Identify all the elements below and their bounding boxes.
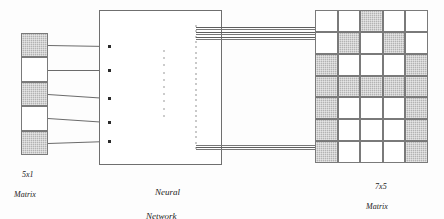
nn-output-node-10 (195, 73, 197, 75)
output-matrix-cell-r2-c2 (338, 32, 361, 54)
nn-caption-line1: Neural (155, 187, 180, 197)
nn-output-node-13 (195, 89, 197, 91)
output-matrix-cell-r4-c4 (383, 76, 406, 98)
output-matrix-cell-r1-c3 (360, 10, 383, 32)
output-matrix-cell-r6-c3 (360, 119, 383, 141)
nn-hidden-node-8 (163, 100, 165, 102)
nn-output-node-4 (195, 41, 197, 43)
nn-hidden-node-2 (163, 57, 165, 59)
output-caption-line2: Matrix (366, 202, 388, 212)
input-caption-line2: Matrix (14, 190, 36, 200)
nn-output-node-20 (195, 126, 197, 128)
output-matrix-cell-r2-c3 (360, 32, 383, 54)
input-matrix-5x1 (21, 33, 48, 155)
nn-input-node-4 (108, 121, 111, 124)
top-bundle-line-5 (196, 37, 318, 38)
top-bundle-line-4 (196, 34, 318, 35)
output-matrix-cell-r4-c3 (360, 76, 383, 98)
output-matrix-cell-r1-c5 (405, 10, 428, 32)
nn-output-node-16 (195, 105, 197, 107)
input-matrix-cell-r2-c1 (21, 57, 48, 81)
diagram-canvas: 5x1 Matrix Neural Network 7x5 Matrix (0, 0, 444, 219)
bottom-bundle-line-3 (196, 149, 318, 150)
nn-output-node-23 (195, 142, 197, 144)
nn-output-node-5 (195, 46, 197, 48)
nn-hidden-node-1 (163, 50, 165, 52)
nn-input-node-1 (108, 45, 111, 48)
top-bundle-line-1 (196, 27, 318, 28)
nn-output-node-18 (195, 115, 197, 117)
output-matrix-cell-r3-c3 (360, 54, 383, 76)
output-matrix-cell-r7-c5 (405, 141, 428, 163)
output-caption-line1: 7x5 (375, 182, 387, 191)
output-matrix-cell-r3-c1 (315, 54, 338, 76)
nn-hidden-node-6 (163, 86, 165, 88)
nn-hidden-node-9 (163, 108, 165, 110)
bottom-bundle-line-1 (196, 145, 318, 146)
nn-output-node-14 (195, 94, 197, 96)
nn-output-node-7 (195, 57, 197, 59)
nn-hidden-node-5 (163, 79, 165, 81)
output-matrix-cell-r5-c4 (383, 97, 406, 119)
output-matrix-cell-r1-c1 (315, 10, 338, 32)
output-matrix-cell-r7-c2 (338, 141, 361, 163)
output-matrix-cell-r1-c2 (338, 10, 361, 32)
output-matrix-cell-r2-c1 (315, 32, 338, 54)
nn-hidden-node-7 (163, 93, 165, 95)
nn-caption-line2: Network (146, 210, 180, 219)
top-bundle-line-6 (196, 39, 318, 40)
nn-hidden-node-4 (163, 72, 165, 74)
output-matrix-caption: 7x5 Matrix (366, 172, 388, 219)
nn-output-node-12 (195, 83, 197, 85)
output-matrix-cell-r6-c1 (315, 119, 338, 141)
nn-hidden-node-10 (163, 115, 165, 117)
nn-output-node-21 (195, 131, 197, 133)
output-matrix-cell-r2-c5 (405, 32, 428, 54)
output-matrix-cell-r1-c4 (383, 10, 406, 32)
top-bundle-line-2 (196, 29, 318, 30)
input-matrix-cell-r4-c1 (21, 106, 48, 130)
output-matrix-cell-r7-c1 (315, 141, 338, 163)
output-matrix-cell-r4-c2 (338, 76, 361, 98)
neural-network-caption: Neural Network (146, 174, 180, 219)
nn-output-node-15 (195, 99, 197, 101)
input-matrix-cell-r1-c1 (21, 33, 48, 57)
output-matrix-7x5 (315, 10, 428, 163)
nn-output-node-19 (195, 120, 197, 122)
output-matrix-cell-r3-c5 (405, 54, 428, 76)
output-matrix-cell-r7-c4 (383, 141, 406, 163)
output-matrix-cell-r2-c4 (383, 32, 406, 54)
nn-hidden-node-3 (163, 64, 165, 66)
output-matrix-cell-r5-c2 (338, 97, 361, 119)
output-matrix-cell-r3-c2 (338, 54, 361, 76)
output-matrix-cell-r4-c1 (315, 76, 338, 98)
nn-input-node-3 (108, 97, 111, 100)
input-caption-line1: 5x1 (22, 170, 34, 179)
input-matrix-caption: 5x1 Matrix (14, 160, 36, 219)
output-matrix-cell-r6-c5 (405, 119, 428, 141)
nn-output-node-6 (195, 52, 197, 54)
nn-input-node-5 (108, 140, 111, 143)
nn-output-node-22 (195, 136, 197, 138)
output-matrix-cell-r5-c5 (405, 97, 428, 119)
output-matrix-cell-r6-c2 (338, 119, 361, 141)
output-matrix-cell-r6-c4 (383, 119, 406, 141)
output-matrix-cell-r4-c5 (405, 76, 428, 98)
output-matrix-cell-r5-c3 (360, 97, 383, 119)
nn-output-node-8 (195, 62, 197, 64)
nn-output-node-11 (195, 78, 197, 80)
top-bundle-line-3 (196, 32, 318, 33)
nn-input-node-2 (108, 69, 111, 72)
nn-output-node-9 (195, 67, 197, 69)
input-matrix-cell-r5-c1 (21, 131, 48, 155)
input-matrix-cell-r3-c1 (21, 82, 48, 106)
bottom-bundle-line-2 (196, 147, 318, 148)
output-matrix-cell-r5-c1 (315, 97, 338, 119)
output-matrix-cell-r7-c3 (360, 141, 383, 163)
nn-output-node-17 (195, 110, 197, 112)
output-matrix-cell-r3-c4 (383, 54, 406, 76)
